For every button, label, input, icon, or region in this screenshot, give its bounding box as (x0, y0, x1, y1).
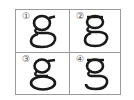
letter-g-glyph (16, 53, 69, 95)
letter-g-glyph (70, 10, 121, 52)
option-3[interactable]: ③ (16, 53, 70, 95)
g-glyph-icon (28, 56, 58, 92)
answer-choice-grid: ① ② ③ (15, 9, 121, 95)
letter-g-glyph (70, 53, 121, 95)
g-glyph-icon (81, 56, 111, 92)
option-1[interactable]: ① (16, 10, 70, 53)
g-glyph-icon (28, 13, 58, 49)
g-glyph-icon (81, 13, 111, 49)
letter-g-glyph (16, 10, 69, 52)
option-4[interactable]: ④ (70, 53, 121, 95)
option-2[interactable]: ② (70, 10, 121, 53)
